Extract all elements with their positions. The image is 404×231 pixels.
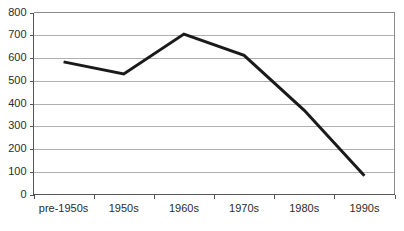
x-tick-label-pre-1950s: pre-1950s (39, 202, 89, 214)
y-tick-label-400: 400 (8, 97, 26, 109)
x-tick-label-1950s: 1950s (109, 202, 139, 214)
y-tick-label-group: 8007006005004003002001000 (8, 6, 26, 200)
y-tick-label-100: 100 (8, 165, 26, 177)
chart-figure: 8007006005004003002001000 pre-1950s1950s… (0, 0, 404, 231)
y-tick-label-300: 300 (8, 119, 26, 131)
y-tick-label-0: 0 (20, 188, 26, 200)
y-tick-label-800: 800 (8, 6, 26, 18)
chart-background (0, 0, 404, 231)
y-tick-label-500: 500 (8, 74, 26, 86)
x-tick-label-1990s: 1990s (349, 202, 379, 214)
y-tick-label-700: 700 (8, 28, 26, 40)
y-tick-label-600: 600 (8, 51, 26, 63)
x-tick-label-1980s: 1980s (289, 202, 319, 214)
y-tick-label-200: 200 (8, 142, 26, 154)
line-chart: 8007006005004003002001000 pre-1950s1950s… (0, 0, 404, 231)
x-tick-label-1970s: 1970s (229, 202, 259, 214)
x-tick-label-1960s: 1960s (169, 202, 199, 214)
